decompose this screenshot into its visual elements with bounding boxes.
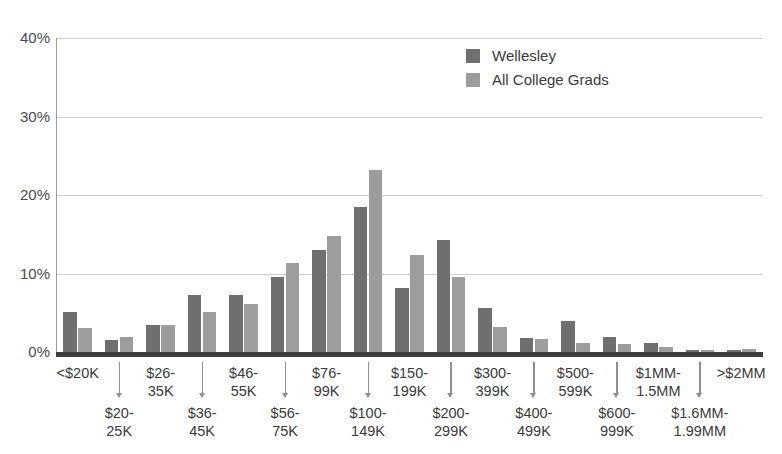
bars-layer: [57, 38, 762, 352]
bar-all-college-grads: [493, 327, 507, 352]
x-axis-label: $1MM-1.5MM: [616, 364, 700, 400]
bar-all-college-grads: [244, 304, 258, 352]
y-axis-tick-label: 10%: [4, 266, 50, 281]
y-axis-tick-label: 30%: [4, 109, 50, 124]
x-axis-label: $400-499K: [492, 404, 576, 440]
x-axis-label-line1: $20-: [77, 404, 161, 422]
bar-group: [264, 38, 305, 352]
legend-item-wellesley: Wellesley: [466, 44, 609, 68]
x-axis-label-line2: 499K: [492, 422, 576, 440]
x-axis-label-line2: 149K: [326, 422, 410, 440]
bar-group: [57, 38, 98, 352]
legend: Wellesley All College Grads: [466, 44, 609, 92]
x-axis-label-line1: $600-: [575, 404, 659, 422]
bar-all-college-grads: [161, 325, 175, 352]
x-axis-label-line1: $100-: [326, 404, 410, 422]
x-axis-label-line2: 1.99MM: [658, 422, 742, 440]
bar-wellesley: [520, 338, 534, 352]
x-axis-label-line1: >$2MM: [699, 364, 782, 382]
bar-group: [98, 38, 139, 352]
bar-wellesley: [603, 337, 617, 352]
bar-wellesley: [312, 250, 326, 352]
legend-swatch-wellesley: [466, 49, 480, 63]
x-axis-label: $200-299K: [409, 404, 493, 440]
bar-wellesley: [105, 340, 119, 352]
x-axis-label: $46-55K: [202, 364, 286, 400]
bar-group: [306, 38, 347, 352]
bar-group: [679, 38, 720, 352]
x-axis-label: $1.6MM-1.99MM: [658, 404, 742, 440]
x-axis-label-line1: $200-: [409, 404, 493, 422]
bar-group: [223, 38, 264, 352]
x-axis-label: $600-999K: [575, 404, 659, 440]
bar-all-college-grads: [369, 170, 383, 352]
x-axis-label-line2: 55K: [202, 382, 286, 400]
bar-group: [347, 38, 388, 352]
x-axis-label-line1: $500-: [533, 364, 617, 382]
x-axis-label-line1: $150-: [368, 364, 452, 382]
x-axis-label: >$2MM: [699, 364, 782, 382]
x-axis-label: $56-75K: [243, 404, 327, 440]
x-axis-label-line2: 99K: [285, 382, 369, 400]
bar-group: [638, 38, 679, 352]
bar-all-college-grads: [286, 263, 300, 352]
income-distribution-bar-chart: 0%10%20%30%40% Wellesley All College Gra…: [0, 0, 782, 454]
bar-wellesley: [229, 295, 243, 352]
bar-all-college-grads: [535, 339, 549, 352]
x-axis-label-line1: $56-: [243, 404, 327, 422]
x-axis-label-line1: $300-: [450, 364, 534, 382]
bar-all-college-grads: [203, 312, 217, 352]
bar-wellesley: [271, 277, 285, 352]
x-axis-label-line1: $26-: [119, 364, 203, 382]
bar-all-college-grads: [78, 328, 92, 352]
x-axis-label: $76-99K: [285, 364, 369, 400]
bar-wellesley: [395, 288, 409, 352]
x-axis-category-labels: <$20K$20-25K$26-35K$36-45K$46-55K$56-75K…: [0, 357, 782, 454]
bar-all-college-grads: [618, 344, 632, 352]
bar-wellesley: [146, 325, 160, 352]
x-axis-label-line2: 599K: [533, 382, 617, 400]
bar-wellesley: [644, 343, 658, 352]
x-axis-label-line1: $46-: [202, 364, 286, 382]
x-axis-label-line1: $400-: [492, 404, 576, 422]
x-axis-label-line2: 35K: [119, 382, 203, 400]
y-axis-tick-label: 40%: [4, 30, 50, 45]
bar-wellesley: [478, 308, 492, 352]
bar-wellesley: [561, 321, 575, 352]
x-axis-label: $20-25K: [77, 404, 161, 440]
x-axis-label: $100-149K: [326, 404, 410, 440]
bar-group: [140, 38, 181, 352]
bar-group: [181, 38, 222, 352]
x-axis-label: $150-199K: [368, 364, 452, 400]
x-axis-label-line1: $1.6MM-: [658, 404, 742, 422]
x-axis-label-line1: $76-: [285, 364, 369, 382]
bar-wellesley: [354, 207, 368, 352]
bar-all-college-grads: [576, 343, 590, 352]
arrow-head: [696, 393, 702, 398]
bar-all-college-grads: [120, 337, 134, 352]
x-axis-label-line2: 299K: [409, 422, 493, 440]
x-axis-label: $26-35K: [119, 364, 203, 400]
bar-all-college-grads: [410, 255, 424, 352]
x-axis-label-line1: $36-: [160, 404, 244, 422]
x-axis-label-line2: 999K: [575, 422, 659, 440]
bar-group: [721, 38, 762, 352]
x-axis-label: $300-399K: [450, 364, 534, 400]
x-axis-label-line2: 45K: [160, 422, 244, 440]
legend-item-all-college-grads: All College Grads: [466, 68, 609, 92]
x-axis-label-line1: $1MM-: [616, 364, 700, 382]
x-axis-label-line2: 1.5MM: [616, 382, 700, 400]
x-axis-label: $500-599K: [533, 364, 617, 400]
legend-label-wellesley: Wellesley: [492, 48, 556, 64]
bar-wellesley: [63, 312, 77, 352]
legend-label-all-college-grads: All College Grads: [492, 72, 609, 88]
x-axis-label: $36-45K: [160, 404, 244, 440]
bar-wellesley: [188, 295, 202, 352]
x-axis-label-line2: 75K: [243, 422, 327, 440]
x-axis-label-line2: 199K: [368, 382, 452, 400]
y-axis-tick-label: 20%: [4, 187, 50, 202]
bar-all-college-grads: [452, 277, 466, 352]
legend-swatch-all-college-grads: [466, 73, 480, 87]
bar-group: [389, 38, 430, 352]
bar-all-college-grads: [327, 236, 341, 352]
